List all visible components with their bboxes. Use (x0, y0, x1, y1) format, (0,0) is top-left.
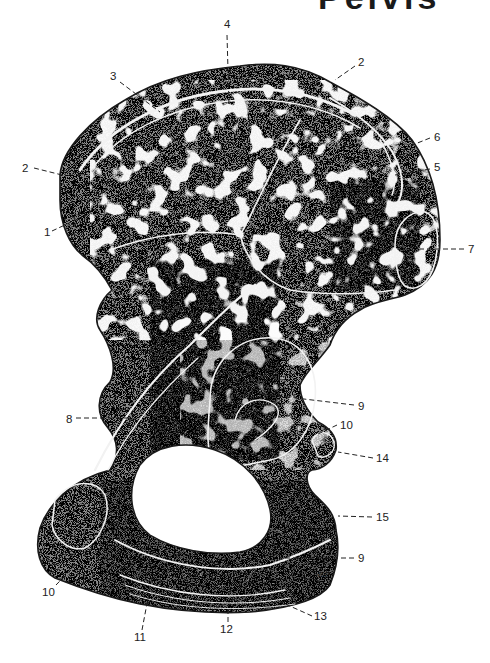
leader-line-l14 (338, 452, 373, 458)
label-l5: 5 (434, 161, 440, 173)
label-l7: 7 (468, 243, 474, 255)
label-l13: 13 (314, 610, 327, 622)
label-l15: 15 (376, 511, 389, 523)
label-l12: 12 (220, 623, 233, 635)
hip-bone-section-illustration: 4326527198101415910111213 R.P (0, 0, 490, 663)
label-l2a: 2 (358, 56, 364, 68)
label-l2b: 2 (22, 162, 28, 174)
label-l8: 8 (66, 413, 72, 425)
label-l10a: 10 (340, 419, 353, 431)
label-l9a: 9 (358, 400, 364, 412)
label-l4: 4 (224, 18, 231, 30)
label-l11: 11 (134, 631, 146, 643)
leader-line-l15 (338, 516, 372, 517)
label-l9b: 9 (358, 552, 364, 564)
label-l14: 14 (376, 452, 389, 464)
label-l1: 1 (44, 226, 50, 238)
label-l3: 3 (110, 70, 116, 82)
label-l10b: 10 (42, 586, 55, 598)
label-l6: 6 (434, 131, 440, 143)
leader-line-l2a (335, 66, 355, 80)
artist-signature: R.P (318, 571, 330, 578)
